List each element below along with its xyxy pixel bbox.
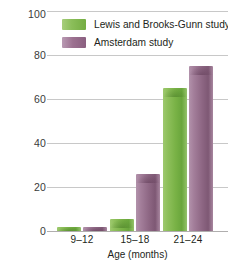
legend-label-amsterdam: Amsterdam study	[94, 37, 173, 48]
bar-cap	[189, 66, 213, 75]
y-tick-label-40: 40	[20, 138, 46, 148]
x-tick-label-21-24: 21–24	[158, 234, 218, 245]
y-tick-label-20: 20	[20, 182, 46, 192]
bar-lewis-15-18[interactable]	[110, 219, 134, 231]
legend-item-lewis[interactable]: Lewis and Brooks-Gunn study	[62, 18, 228, 31]
y-tick-label-80: 80	[20, 50, 46, 60]
legend-item-amsterdam[interactable]: Amsterdam study	[62, 36, 228, 49]
purple-swatch-icon	[62, 37, 86, 48]
gridline-100	[47, 11, 228, 12]
bar-lewis-21-24[interactable]	[163, 88, 187, 231]
axis-baseline	[47, 231, 228, 232]
y-tick-label-100: 100	[20, 9, 46, 19]
bar-cap	[57, 227, 81, 231]
chart-legend: Lewis and Brooks-Gunn study Amsterdam st…	[62, 18, 228, 54]
bar-cap	[83, 227, 107, 231]
bar-amsterdam-15-18[interactable]	[136, 174, 160, 231]
x-axis-title: Age (months)	[47, 249, 228, 260]
y-tick-label-0: 0	[20, 226, 46, 236]
bar-lewis-9-12[interactable]	[57, 227, 81, 231]
bar-cap	[136, 174, 160, 183]
bar-amsterdam-21-24[interactable]	[189, 66, 213, 231]
x-tick-label-15-18: 15–18	[105, 234, 165, 245]
gridline-80	[47, 55, 228, 56]
x-tick-label-9-12: 9–12	[52, 234, 112, 245]
y-axis-title: Percent of subjects who recognized thems…	[0, 0, 47, 240]
bar-cap	[110, 219, 134, 228]
bar-cap	[163, 88, 187, 97]
y-tick-label-60: 60	[20, 94, 46, 104]
bar-amsterdam-9-12[interactable]	[83, 227, 107, 231]
legend-label-lewis: Lewis and Brooks-Gunn study	[94, 19, 228, 30]
green-swatch-icon	[62, 19, 86, 30]
bar-chart: Percent of subjects who recognized thems…	[0, 0, 228, 270]
